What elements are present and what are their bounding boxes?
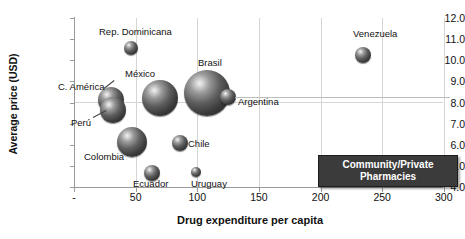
point-label-uruguay: Uruguay [191, 179, 227, 189]
y-tick-label-6: 6.0 [399, 140, 465, 150]
point-label-mexico: México [125, 69, 155, 79]
point-label-argentina: Argentina [238, 97, 279, 107]
bubble-uruguay [191, 167, 201, 177]
bubble-argentina [220, 89, 236, 105]
y-axis-title: Average price (USD) [7, 29, 19, 179]
point-label-rep-dominicana: Rep. Dominicana [99, 27, 172, 37]
point-label-ecuador: Ecuador [133, 179, 168, 189]
x-tick-label-150: 150 [239, 191, 279, 203]
x-tick-label-300: 300 [424, 191, 464, 203]
x-tick-label-250: 250 [362, 191, 402, 203]
x-axis-title: Drug expenditure per capita [130, 214, 370, 226]
point-label-brasil: Brasil [198, 58, 222, 68]
legend-line-2: Pharmacies [360, 171, 416, 182]
y-tick-mark-6 [70, 145, 75, 146]
legend-line-1: Community/Private [342, 159, 433, 170]
point-label-c-america: C. América [58, 82, 104, 92]
y-tick-label-10: 10.0 [399, 55, 465, 65]
point-label-venezuela: Venezuela [353, 29, 397, 39]
y-tick-label-11: 11.0 [399, 34, 465, 44]
y-tick-label-9: 9.0 [399, 76, 465, 86]
y-tick-mark-10 [70, 60, 75, 61]
x-tick-label-100: 100 [177, 191, 217, 203]
bubble-venezuela [355, 47, 371, 63]
bubble-chile [172, 135, 188, 151]
y-tick-label-7: 7.0 [399, 119, 465, 129]
point-label-chile: Chile [188, 139, 210, 149]
x-tick-label-200: 200 [301, 191, 341, 203]
x-tick-label-0: - [54, 191, 94, 203]
y-tick-label-8: 8.0 [399, 98, 465, 108]
y-tick-mark-11 [70, 39, 75, 40]
y-tick-mark-5 [70, 166, 75, 167]
legend-label: Community/PrivatePharmacies [342, 159, 433, 183]
bubble-mexico [142, 80, 178, 116]
x-tick-label-50: 50 [116, 191, 156, 203]
legend-box: Community/PrivatePharmacies [318, 155, 458, 187]
point-label-peru: Perú [71, 118, 91, 128]
bubble-rep-dominicana [124, 41, 138, 55]
y-tick-mark-8 [70, 103, 75, 104]
bubble-chart: 12.0 11.0 10.0 9.0 8.0 7.0 6.0 5.0 4.0 -… [0, 0, 465, 239]
y-tick-mark-12 [70, 18, 75, 19]
point-label-colombia: Colombia [84, 152, 124, 162]
y-tick-label-12: 12.0 [399, 13, 465, 23]
